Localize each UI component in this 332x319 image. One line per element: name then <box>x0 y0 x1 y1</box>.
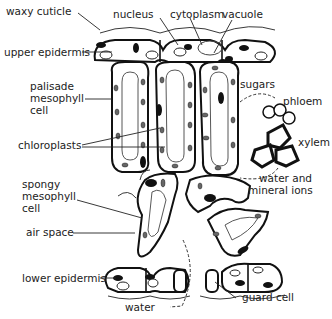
label-water: water <box>125 301 156 313</box>
label-palisade-2: mesophyll <box>30 92 84 104</box>
label-waxy-cuticle: waxy cuticle <box>6 5 71 17</box>
label-xylem: xylem <box>298 136 330 148</box>
vascular-bundle <box>252 104 298 167</box>
label-air-space: air space <box>26 226 74 238</box>
label-nucleus: nucleus <box>113 8 154 20</box>
upper-epidermis <box>95 40 275 62</box>
leaf-cross-section-diagram: waxy cuticle nucleus cytoplasm vacuole u… <box>0 0 332 319</box>
label-palisade-1: palisade <box>30 80 74 92</box>
label-palisade-3: cell <box>30 104 48 116</box>
label-spongy-3: cell <box>22 202 40 214</box>
label-upper-epidermis: upper epidermis <box>4 46 90 58</box>
label-spongy-1: spongy <box>22 178 60 190</box>
label-cytoplasm: cytoplasm <box>170 8 224 20</box>
label-water-minerals-2: mineral ions <box>248 184 313 196</box>
spongy-mesophyll <box>118 170 268 257</box>
label-sugars: sugars <box>240 78 275 90</box>
label-phloem: phloem <box>283 95 322 107</box>
label-vacuole: vacuole <box>222 8 263 20</box>
sugars-arrow <box>240 94 275 102</box>
palisade-mesophyll <box>112 62 239 175</box>
label-chloroplasts: chloroplasts <box>18 139 81 151</box>
label-water-minerals-1: water and <box>259 172 312 184</box>
waxy-cuticle <box>100 27 275 33</box>
label-guard-cell: guard cell <box>242 291 294 303</box>
label-lower-epidermis: lower epidermis <box>22 272 106 284</box>
label-spongy-2: mesophyll <box>22 190 76 202</box>
